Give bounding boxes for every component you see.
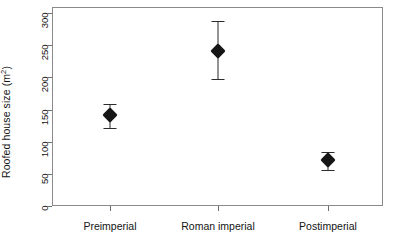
x-tick-mark xyxy=(218,206,219,211)
y-axis-title-exponent: 2 xyxy=(0,70,8,74)
error-bar-cap-upper xyxy=(104,104,117,105)
x-tick-mark xyxy=(110,206,111,211)
y-tick-mark xyxy=(47,206,52,207)
chart-figure: Roofed house size (m2) 05010015020025030… xyxy=(0,0,398,244)
marker-diamond xyxy=(320,153,336,169)
y-axis-title-text: Roofed house size (m xyxy=(0,74,12,178)
x-tick-label-preimperial: Preimperial xyxy=(83,220,136,232)
error-bar-cap-lower xyxy=(104,128,117,129)
plot-area xyxy=(52,7,383,206)
y-axis-title-close: ) xyxy=(0,66,12,70)
error-bar-cap-lower xyxy=(212,79,225,80)
marker-diamond xyxy=(210,43,226,59)
error-bar-cap-lower xyxy=(322,170,335,171)
error-bar-cap-upper xyxy=(212,21,225,22)
y-tick-label: 200 xyxy=(39,77,50,107)
y-tick-label: 150 xyxy=(39,109,50,139)
y-tick-label: 300 xyxy=(39,13,50,43)
y-tick-label: 100 xyxy=(39,141,50,171)
y-tick-label: 50 xyxy=(39,173,50,203)
x-tick-mark xyxy=(328,206,329,211)
y-tick-label: 0 xyxy=(39,206,50,236)
marker-diamond xyxy=(102,108,118,124)
x-tick-label-postimperial: Postimperial xyxy=(299,220,357,232)
y-axis-title: Roofed house size (m2) xyxy=(0,0,18,244)
x-tick-label-roman-imperial: Roman imperial xyxy=(181,220,255,232)
y-tick-label: 250 xyxy=(39,45,50,75)
